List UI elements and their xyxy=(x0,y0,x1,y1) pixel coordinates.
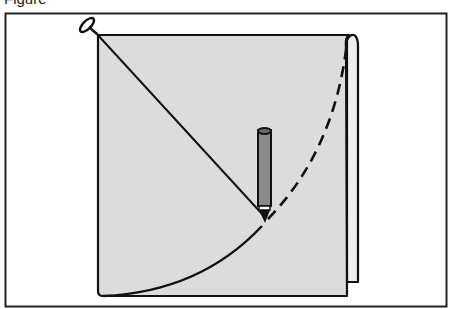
back-flap xyxy=(347,35,358,282)
paper-square xyxy=(98,35,349,296)
diagram-canvas xyxy=(0,0,453,309)
pencil-icon xyxy=(258,128,271,223)
